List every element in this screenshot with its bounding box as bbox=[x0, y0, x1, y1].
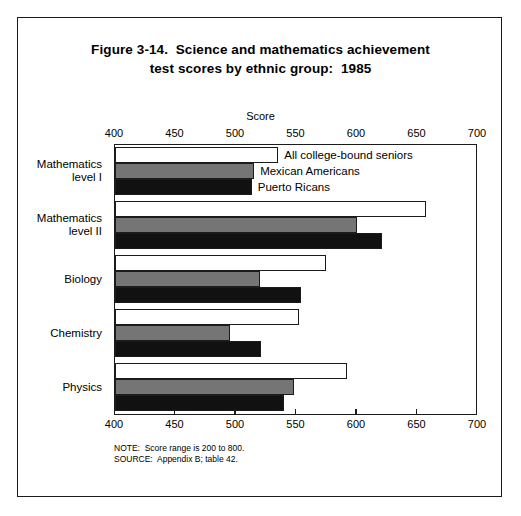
x-axis-tick-labels-top: 400450500550600650700 bbox=[18, 127, 503, 141]
x-axis-tick-label: 450 bbox=[165, 127, 183, 139]
title-line-1: Figure 3-14. Science and mathematics ach… bbox=[18, 40, 503, 59]
figure-frame: Figure 3-14. Science and mathematics ach… bbox=[17, 17, 502, 497]
x-axis-tick-label: 400 bbox=[105, 418, 123, 430]
bar-1-group-4 bbox=[115, 379, 294, 395]
x-axis-tick-label: 450 bbox=[165, 418, 183, 430]
x-axis-tick-label: 700 bbox=[468, 418, 486, 430]
x-axis-tick-labels-bottom: 400450500550600650700 bbox=[18, 418, 503, 432]
x-axis-tick bbox=[355, 409, 357, 415]
title-line-2: test scores by ethnic group: 1985 bbox=[18, 59, 503, 78]
bar-2-group-2 bbox=[115, 287, 301, 303]
x-axis-tick-label: 600 bbox=[347, 418, 365, 430]
y-axis-category-label: Chemistry bbox=[50, 327, 102, 341]
bar-2-group-0 bbox=[115, 179, 252, 195]
x-axis-tick-label: 500 bbox=[226, 127, 244, 139]
x-axis-tick-label: 650 bbox=[407, 127, 425, 139]
source-text: SOURCE: Appendix B; table 42. bbox=[114, 454, 244, 465]
y-axis-category-label: Mathematicslevel I bbox=[37, 158, 102, 185]
x-axis-tick bbox=[295, 409, 297, 415]
bar-0-group-4 bbox=[115, 363, 347, 379]
bar-1-group-0 bbox=[115, 163, 254, 179]
footnotes: NOTE: Score range is 200 to 800. SOURCE:… bbox=[114, 443, 244, 465]
x-axis-tick-label: 700 bbox=[468, 127, 486, 139]
bar-0-group-3 bbox=[115, 309, 299, 325]
x-axis-ticks-bottom bbox=[114, 409, 477, 415]
plot-area: All college-bound seniorsMexican America… bbox=[114, 144, 477, 415]
x-axis-tick-label: 650 bbox=[407, 418, 425, 430]
x-axis-tick bbox=[416, 409, 418, 415]
bar-1-group-3 bbox=[115, 325, 230, 341]
bar-1-group-1 bbox=[115, 217, 357, 233]
legend-label-2: Puerto Ricans bbox=[258, 179, 330, 195]
x-axis-caption: Score bbox=[18, 110, 503, 122]
bar-0-group-2 bbox=[115, 255, 326, 271]
y-axis-category-label: Biology bbox=[64, 273, 102, 287]
x-axis-tick bbox=[234, 409, 236, 415]
x-axis-tick-label: 550 bbox=[286, 127, 304, 139]
x-axis-tick-label: 400 bbox=[105, 127, 123, 139]
bar-2-group-3 bbox=[115, 341, 261, 357]
x-axis-tick-label: 500 bbox=[226, 418, 244, 430]
note-text: NOTE: Score range is 200 to 800. bbox=[114, 443, 244, 454]
x-axis-tick-label: 600 bbox=[347, 127, 365, 139]
bar-0-group-0 bbox=[115, 147, 278, 163]
legend-label-1: Mexican Americans bbox=[260, 163, 360, 179]
page-title: Figure 3-14. Science and mathematics ach… bbox=[18, 40, 503, 78]
y-axis-category-label: Physics bbox=[62, 381, 102, 395]
x-axis-tick bbox=[174, 409, 176, 415]
bar-0-group-1 bbox=[115, 201, 426, 217]
y-axis-category-label: Mathematicslevel II bbox=[37, 212, 102, 239]
legend-label-0: All college-bound seniors bbox=[284, 147, 413, 163]
bar-2-group-1 bbox=[115, 233, 382, 249]
bar-1-group-2 bbox=[115, 271, 260, 287]
y-axis-category-labels: Mathematicslevel IMathematicslevel IIBio… bbox=[18, 144, 108, 415]
x-axis-tick-label: 550 bbox=[286, 418, 304, 430]
